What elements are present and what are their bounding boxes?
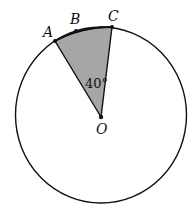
diagram: A B C O 40°: [0, 0, 195, 214]
label-a: A: [41, 24, 53, 40]
label-b: B: [69, 11, 80, 27]
circle-diagram: A B C O 40°: [0, 0, 195, 214]
label-c: C: [108, 8, 119, 24]
angle-label: 40°: [85, 76, 108, 91]
point-o: [99, 115, 103, 119]
shaded-sector: [55, 27, 112, 117]
label-o: O: [96, 121, 108, 137]
point-a: [53, 39, 57, 43]
point-b: [74, 29, 78, 33]
point-c: [110, 25, 114, 29]
